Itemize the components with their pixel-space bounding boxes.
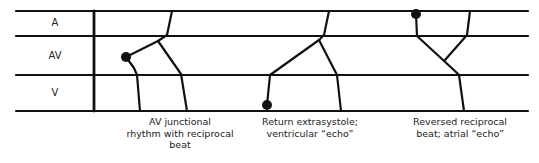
row-label-v: V: [16, 87, 94, 98]
caption-line: beat: [120, 139, 240, 151]
caption-beat3: Reversed reciprocal beat; atrial “echo”: [400, 116, 520, 139]
beat3-antegrade-path: [416, 14, 464, 111]
caption-line: rhythm with reciprocal: [120, 128, 240, 140]
beat1-antegrade-path: [126, 57, 140, 111]
caption-line: Return extrasystole;: [250, 116, 370, 128]
caption-line: ventricular “echo”: [250, 128, 370, 140]
row-label-av: AV: [16, 50, 94, 61]
beat2-retrograde-path: [267, 11, 329, 105]
beat1-origin-dot: [121, 52, 131, 62]
beat2-origin-dot: [262, 100, 272, 110]
caption-beat1: AV junctional rhythm with reciprocal bea…: [120, 116, 240, 151]
caption-line: Reversed reciprocal: [400, 116, 520, 128]
caption-beat2: Return extrasystole; ventricular “echo”: [250, 116, 370, 139]
caption-line: AV junctional: [120, 116, 240, 128]
row-label-a: A: [16, 17, 94, 28]
caption-line: beat; atrial “echo”: [400, 128, 520, 140]
beat3-origin-dot: [411, 9, 421, 19]
